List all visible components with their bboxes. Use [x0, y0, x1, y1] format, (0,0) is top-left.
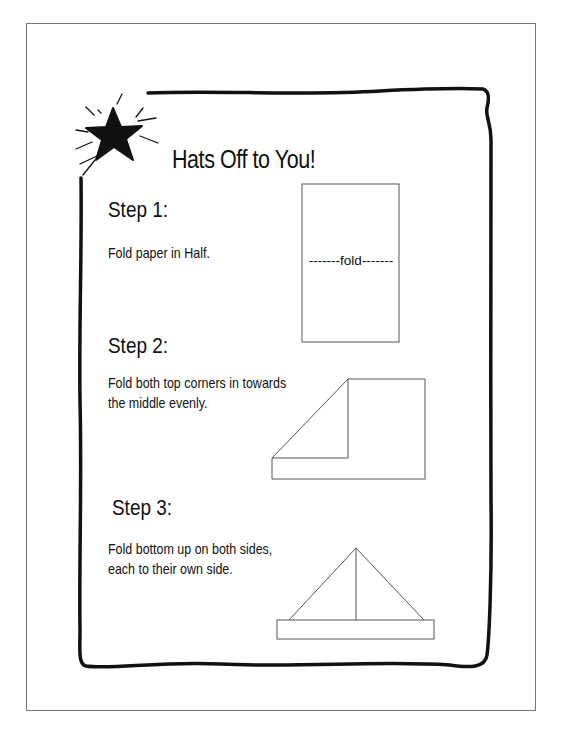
step-2-text-line-2: the middle evenly. — [108, 393, 208, 414]
diagram-step-2 — [272, 379, 425, 479]
diagram-step-3 — [277, 548, 434, 639]
step-2-text-line-1: Fold both top corners in towards — [108, 373, 286, 394]
step-1-heading: Step 1: — [108, 197, 168, 223]
step-2-heading: Step 2: — [108, 333, 168, 359]
step-1-text: Fold paper in Half. — [108, 243, 210, 264]
decorative-frame — [0, 0, 561, 737]
fold-line-label: -------fold------- — [303, 253, 399, 268]
page-title: Hats Off to You! — [172, 145, 315, 174]
star-burst-icon — [76, 94, 158, 175]
step-3-heading: Step 3: — [112, 495, 172, 521]
step-3-text-line-2: each to their own side. — [108, 559, 233, 580]
step-3-text-line-1: Fold bottom up on both sides, — [108, 539, 272, 560]
